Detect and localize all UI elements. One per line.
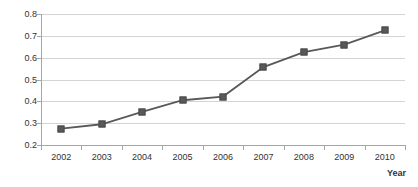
y-axis-tick	[37, 36, 41, 37]
x-axis-tick	[243, 146, 244, 150]
data-point-marker	[341, 41, 348, 48]
data-point-marker	[300, 49, 307, 56]
x-axis-title: Year	[387, 168, 406, 178]
x-axis-tick-label: 2004	[132, 152, 152, 162]
x-axis-tick	[122, 146, 123, 150]
x-axis-tick-label: 2010	[375, 152, 395, 162]
x-axis-tick	[405, 146, 406, 150]
y-axis-tick	[37, 14, 41, 15]
x-axis-tick-label: 2007	[253, 152, 273, 162]
data-point-marker	[179, 97, 186, 104]
data-point-marker	[58, 125, 65, 132]
x-axis-tick	[324, 146, 325, 150]
data-point-marker	[260, 64, 267, 71]
data-point-marker	[220, 93, 227, 100]
x-axis-tick	[162, 146, 163, 150]
y-axis-tick	[37, 58, 41, 59]
data-point-marker	[381, 27, 388, 34]
data-point-marker	[139, 108, 146, 115]
x-axis-tick	[365, 146, 366, 150]
x-axis-tick-label: 2009	[334, 152, 354, 162]
x-axis-tick-label: 2002	[51, 152, 71, 162]
x-axis-tick	[203, 146, 204, 150]
data-point-marker	[98, 121, 105, 128]
y-axis-tick	[37, 101, 41, 102]
line-chart: 0.20.30.40.50.60.70.8 200220032004200520…	[0, 0, 418, 187]
x-axis-tick	[81, 146, 82, 150]
x-axis-tick-label: 2005	[173, 152, 193, 162]
y-axis-tick	[37, 123, 41, 124]
x-axis-tick	[284, 146, 285, 150]
x-axis-tick	[41, 146, 42, 150]
x-axis-tick-label: 2003	[92, 152, 112, 162]
x-axis-tick-label: 2008	[294, 152, 314, 162]
x-axis-tick-label: 2006	[213, 152, 233, 162]
y-axis-tick	[37, 80, 41, 81]
